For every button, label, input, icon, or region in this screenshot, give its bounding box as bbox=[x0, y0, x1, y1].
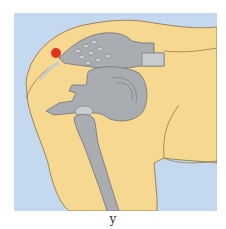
red-marker bbox=[51, 48, 61, 58]
figure-caption: y bbox=[0, 212, 226, 226]
anatomical-illustration bbox=[14, 13, 217, 211]
lumbar-vertebra bbox=[142, 53, 164, 66]
